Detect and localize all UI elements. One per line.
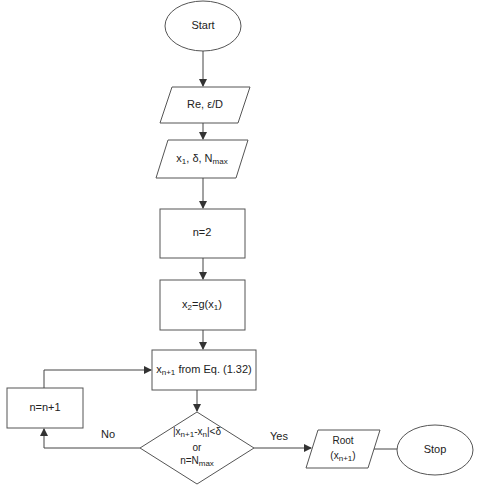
compute-label: xn+1 from Eq. (1.32) — [156, 363, 252, 378]
start-label: Start — [191, 19, 214, 32]
output-label: Root (xn+1) — [330, 433, 355, 465]
stop-label: Stop — [424, 443, 447, 456]
increment-label: n=n+1 — [29, 401, 60, 414]
input2-label: x1, δ, Nmax — [176, 152, 227, 167]
edge-decision-increment — [44, 429, 140, 448]
yes-edge-label: Yes — [270, 430, 288, 442]
x2-label: x2=g(x1) — [182, 298, 222, 313]
decision-label: |xn+1-xn|<δ or n=Nmax — [173, 425, 221, 470]
edge-increment-compute — [44, 370, 151, 388]
no-edge-label: No — [101, 428, 115, 440]
n2-label: n=2 — [193, 226, 212, 239]
input1-label: Re, ε/D — [187, 98, 223, 111]
flowchart-canvas — [0, 0, 496, 497]
